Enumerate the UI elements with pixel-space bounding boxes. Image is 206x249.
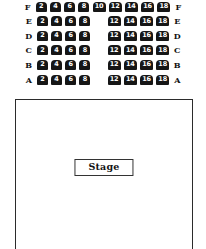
seat-c-2[interactable]: 2 xyxy=(37,45,48,55)
seat-a-2[interactable]: 2 xyxy=(37,75,48,85)
row-label-left-f: F xyxy=(21,3,34,11)
seat-e-14[interactable]: 14 xyxy=(124,16,137,26)
seat-row-b: B246812141618B xyxy=(0,58,206,71)
seat-b-16[interactable]: 16 xyxy=(140,60,153,70)
seat-row-a: A246812141618A xyxy=(0,73,206,86)
seat-b-18[interactable]: 18 xyxy=(156,60,169,70)
row-label-left-d: D xyxy=(22,32,35,40)
stage-label: Stage xyxy=(74,159,133,176)
seat-f-18[interactable]: 18 xyxy=(157,2,170,12)
seat-c-12[interactable]: 12 xyxy=(108,45,121,55)
seat-row-d: D246812141618D xyxy=(0,29,206,42)
seat-a-14[interactable]: 14 xyxy=(124,75,137,85)
seat-row-f: F24681012141618F xyxy=(0,0,206,13)
seat-b-12[interactable]: 12 xyxy=(108,60,121,70)
seat-f-6[interactable]: 6 xyxy=(64,2,75,12)
seat-a-4[interactable]: 4 xyxy=(51,75,62,85)
seat-c-8[interactable]: 8 xyxy=(79,45,90,55)
seat-f-16[interactable]: 16 xyxy=(141,2,154,12)
seat-strip-a: 246812141618 xyxy=(35,75,171,85)
row-label-right-f: F xyxy=(172,3,185,11)
seat-f-2[interactable]: 2 xyxy=(36,2,47,12)
seat-strip-e: 246812141618 xyxy=(35,16,171,26)
seat-strip-f: 24681012141618 xyxy=(34,2,172,12)
seat-e-2[interactable]: 2 xyxy=(37,16,48,26)
seat-row-c: C246812141618C xyxy=(0,44,206,57)
seat-d-8[interactable]: 8 xyxy=(79,31,90,41)
seat-a-12[interactable]: 12 xyxy=(108,75,121,85)
aisle-a xyxy=(92,75,106,85)
seat-c-16[interactable]: 16 xyxy=(140,45,153,55)
seat-e-6[interactable]: 6 xyxy=(65,16,76,26)
seat-a-6[interactable]: 6 xyxy=(65,75,76,85)
row-label-left-a: A xyxy=(22,76,35,84)
seat-a-8[interactable]: 8 xyxy=(79,75,90,85)
seat-c-4[interactable]: 4 xyxy=(51,45,62,55)
seat-d-18[interactable]: 18 xyxy=(156,31,169,41)
seat-e-8[interactable]: 8 xyxy=(79,16,90,26)
row-label-right-c: C xyxy=(171,46,184,54)
seat-a-18[interactable]: 18 xyxy=(156,75,169,85)
aisle-d xyxy=(92,31,106,41)
seat-c-6[interactable]: 6 xyxy=(65,45,76,55)
row-label-right-b: B xyxy=(171,61,184,69)
seat-b-8[interactable]: 8 xyxy=(79,60,90,70)
seat-rows-container: F24681012141618FE246812141618ED246812141… xyxy=(0,0,206,88)
seat-strip-b: 246812141618 xyxy=(35,60,171,70)
seat-b-2[interactable]: 2 xyxy=(37,60,48,70)
seat-f-8[interactable]: 8 xyxy=(78,2,89,12)
row-label-left-e: E xyxy=(22,17,35,25)
seat-e-18[interactable]: 18 xyxy=(156,16,169,26)
aisle-c xyxy=(92,45,106,55)
seat-d-2[interactable]: 2 xyxy=(37,31,48,41)
seat-f-4[interactable]: 4 xyxy=(50,2,61,12)
seat-e-16[interactable]: 16 xyxy=(140,16,153,26)
row-label-right-e: E xyxy=(171,17,184,25)
seat-strip-c: 246812141618 xyxy=(35,45,171,55)
seat-b-4[interactable]: 4 xyxy=(51,60,62,70)
seat-d-16[interactable]: 16 xyxy=(140,31,153,41)
row-label-left-b: B xyxy=(22,61,35,69)
row-label-right-a: A xyxy=(171,76,184,84)
seat-strip-d: 246812141618 xyxy=(35,31,171,41)
aisle-e xyxy=(92,16,106,26)
seat-e-4[interactable]: 4 xyxy=(51,16,62,26)
row-label-left-c: C xyxy=(22,46,35,54)
seat-d-6[interactable]: 6 xyxy=(65,31,76,41)
seat-d-12[interactable]: 12 xyxy=(108,31,121,41)
aisle-b xyxy=(92,60,106,70)
seat-f-12[interactable]: 12 xyxy=(109,2,122,12)
seat-a-16[interactable]: 16 xyxy=(140,75,153,85)
seat-b-14[interactable]: 14 xyxy=(124,60,137,70)
seat-c-14[interactable]: 14 xyxy=(124,45,137,55)
auditorium-outline: Stage xyxy=(15,99,193,249)
seat-f-14[interactable]: 14 xyxy=(125,2,138,12)
seat-f-10[interactable]: 10 xyxy=(93,2,106,12)
seat-c-18[interactable]: 18 xyxy=(156,45,169,55)
row-label-right-d: D xyxy=(171,32,184,40)
seat-b-6[interactable]: 6 xyxy=(65,60,76,70)
seat-d-14[interactable]: 14 xyxy=(124,31,137,41)
seat-d-4[interactable]: 4 xyxy=(51,31,62,41)
seat-e-12[interactable]: 12 xyxy=(108,16,121,26)
seat-row-e: E246812141618E xyxy=(0,15,206,28)
